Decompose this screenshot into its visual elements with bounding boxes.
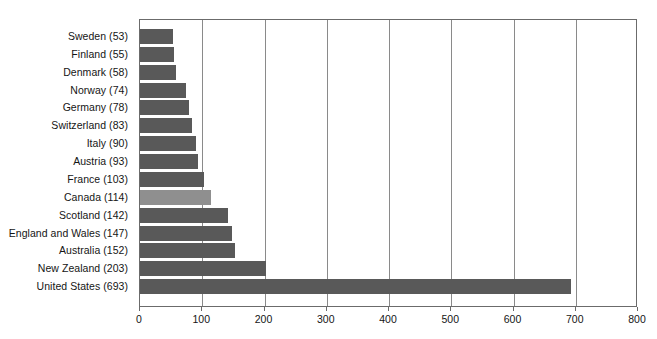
category-label: Italy (90): [0, 137, 128, 150]
category-label: New Zealand (203): [0, 262, 128, 275]
bar: [140, 118, 192, 133]
bar: [140, 83, 186, 98]
category-label: Scotland (142): [0, 209, 128, 222]
category-label: France (103): [0, 173, 128, 186]
tick-mark-200: [264, 307, 265, 311]
tick-mark-400: [388, 307, 389, 311]
tick-label-100: 100: [192, 312, 210, 326]
tick-mark-700: [575, 307, 576, 311]
bar: [140, 261, 266, 276]
category-label: United States (693): [0, 280, 128, 293]
tick-mark-800: [637, 307, 638, 311]
x-axis-tick-labels: 0100200300400500600700800: [139, 312, 637, 332]
tick-label-0: 0: [136, 312, 142, 326]
category-label: Finland (55): [0, 48, 128, 61]
bar: [140, 172, 204, 187]
category-label: Switzerland (83): [0, 119, 128, 132]
bar: [140, 154, 198, 169]
category-label: England and Wales (147): [0, 227, 128, 240]
tick-mark-0: [139, 307, 140, 311]
tick-label-500: 500: [441, 312, 459, 326]
bar: [140, 136, 196, 151]
bar: [140, 279, 571, 294]
bar: [140, 47, 174, 62]
bar: [140, 29, 173, 44]
category-label: Austria (93): [0, 155, 128, 168]
category-axis-labels: Sweden (53)Finland (55)Denmark (58)Norwa…: [0, 29, 133, 297]
bar: [140, 208, 228, 223]
tick-mark-300: [326, 307, 327, 311]
bar: [140, 226, 232, 241]
tick-mark-100: [201, 307, 202, 311]
tick-mark-600: [513, 307, 514, 311]
tick-label-300: 300: [317, 312, 335, 326]
category-label: Canada (114): [0, 191, 128, 204]
category-label: Denmark (58): [0, 66, 128, 79]
tick-label-600: 600: [504, 312, 522, 326]
tick-mark-500: [450, 307, 451, 311]
bar: [140, 190, 211, 205]
tick-label-200: 200: [255, 312, 273, 326]
tick-label-400: 400: [379, 312, 397, 326]
bars-layer: [140, 29, 636, 297]
category-label: Norway (74): [0, 84, 128, 97]
bar: [140, 100, 189, 115]
category-label: Germany (78): [0, 101, 128, 114]
category-label: Australia (152): [0, 244, 128, 257]
category-label: Sweden (53): [0, 30, 128, 43]
bar: [140, 243, 235, 258]
tick-label-700: 700: [566, 312, 584, 326]
tick-label-800: 800: [628, 312, 646, 326]
plot-area: [139, 19, 637, 307]
bar-chart: Sweden (53)Finland (55)Denmark (58)Norwa…: [0, 0, 657, 339]
bar: [140, 65, 176, 80]
